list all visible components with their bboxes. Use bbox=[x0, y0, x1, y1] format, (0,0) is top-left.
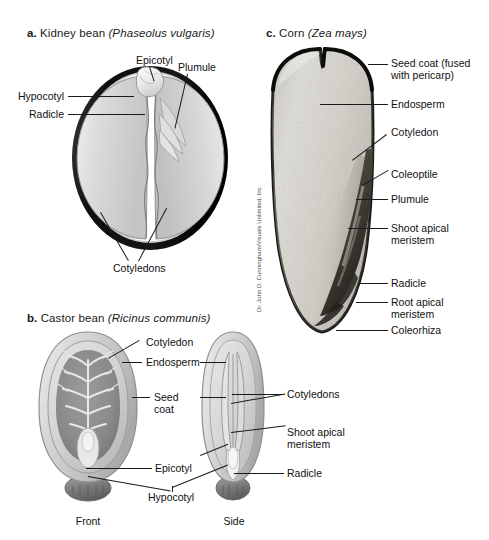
leader-castor-hypocotyl-tick bbox=[172, 486, 173, 492]
panel-a-heading: a. Kidney bean (Phaseolus vulgaris) bbox=[27, 27, 215, 39]
label-castor-seed-coat-line1: Seed bbox=[154, 391, 179, 403]
castor-bean-side-illustration bbox=[196, 330, 270, 510]
seed-structure-figure: a. Kidney bean (Phaseolus vulgaris) bbox=[0, 0, 489, 540]
label-corn-sam-line2: meristem bbox=[391, 234, 434, 246]
leader-castor-seed-coat-right bbox=[200, 397, 226, 398]
panel-a-scientific-name: (Phaseolus vulgaris) bbox=[108, 27, 214, 39]
label-corn-cotyledon: Cotyledon bbox=[391, 127, 438, 139]
label-corn-seed-coat-line2: with pericarp) bbox=[391, 69, 454, 81]
label-castor-seed-coat: Seed coat bbox=[154, 392, 200, 415]
label-corn-coleoptile: Coleoptile bbox=[391, 169, 438, 181]
label-corn-shoot-apical-meristem: Shoot apical meristem bbox=[391, 223, 481, 246]
leader-corn-plumule bbox=[356, 199, 388, 200]
label-kidney-bean-cotyledons: Cotyledons bbox=[113, 263, 166, 275]
leader-kidney-bean-hypocotyl bbox=[68, 96, 134, 97]
label-castor-radicle: Radicle bbox=[287, 468, 322, 480]
label-corn-ram-line1: Root apical bbox=[391, 296, 444, 308]
label-corn-plumule: Plumule bbox=[391, 194, 429, 206]
leader-castor-epicotyl-front bbox=[86, 468, 152, 469]
panel-b-name: Castor bean bbox=[41, 312, 105, 324]
panel-a-name: Kidney bean bbox=[40, 27, 105, 39]
panel-a-letter: a. bbox=[27, 27, 37, 39]
label-corn-seed-coat: Seed coat (fused with pericarp) bbox=[391, 58, 487, 81]
label-corn-ram-line2: meristem bbox=[391, 308, 434, 320]
leader-corn-root-apical-meristem bbox=[356, 302, 388, 303]
leader-castor-seed-coat-left bbox=[132, 397, 150, 398]
panel-b-scientific-name: (Ricinus communis) bbox=[108, 312, 211, 324]
label-corn-sam-line1: Shoot apical bbox=[391, 222, 449, 234]
label-corn-endosperm: Endosperm bbox=[391, 99, 445, 111]
label-castor-view-side: Side bbox=[205, 516, 263, 528]
label-kidney-bean-radicle: Radicle bbox=[6, 109, 64, 121]
leader-corn-coleorhiza bbox=[336, 330, 388, 331]
leader-corn-seed-coat bbox=[368, 64, 388, 65]
label-kidney-bean-epicotyl: Epicotyl bbox=[136, 55, 173, 67]
corn-kernel-svg bbox=[266, 46, 378, 337]
label-castor-seed-coat-line2: coat bbox=[154, 403, 174, 415]
label-castor-shoot-apical-meristem: Shoot apical meristem bbox=[287, 427, 367, 450]
leader-corn-shoot-apical-meristem bbox=[348, 228, 388, 229]
panel-c-letter: c. bbox=[266, 27, 276, 39]
label-castor-view-front: Front bbox=[58, 516, 118, 528]
label-corn-seed-coat-line1: Seed coat (fused bbox=[391, 57, 470, 69]
kidney-bean-svg bbox=[60, 62, 240, 262]
photo-credit: Dr. John D. Cunningham/Visuals Unlimited… bbox=[256, 186, 262, 312]
leader-corn-radicle bbox=[358, 283, 388, 284]
castor-bean-side-svg bbox=[196, 330, 270, 510]
label-castor-sam-line1: Shoot apical bbox=[287, 426, 345, 438]
leader-castor-endosperm-left bbox=[122, 362, 142, 363]
leader-castor-endosperm-right bbox=[200, 362, 226, 363]
label-castor-sam-line2: meristem bbox=[287, 438, 330, 450]
panel-c-heading: c. Corn (Zea mays) bbox=[266, 27, 367, 39]
panel-b-letter: b. bbox=[27, 312, 37, 324]
label-kidney-bean-hypocotyl: Hypocotyl bbox=[6, 91, 64, 103]
label-castor-cotyledon: Cotyledon bbox=[146, 337, 193, 349]
label-castor-epicotyl: Epicotyl bbox=[155, 463, 192, 475]
leader-castor-radicle bbox=[234, 473, 284, 474]
label-corn-coleorhiza: Coleorhiza bbox=[391, 325, 441, 337]
label-castor-cotyledons: Cotyledons bbox=[287, 389, 340, 401]
panel-b-heading: b. Castor bean (Ricinus communis) bbox=[27, 312, 211, 324]
label-castor-hypocotyl: Hypocotyl bbox=[148, 492, 194, 504]
kidney-bean-illustration bbox=[60, 62, 240, 262]
leader-corn-endosperm bbox=[320, 104, 388, 105]
label-kidney-bean-plumule: Plumule bbox=[178, 62, 216, 74]
label-corn-root-apical-meristem: Root apical meristem bbox=[391, 297, 481, 320]
panel-c-name: Corn bbox=[279, 27, 304, 39]
corn-kernel-photograph bbox=[266, 46, 378, 337]
label-castor-endosperm: Endosperm bbox=[146, 357, 200, 369]
panel-c-scientific-name: (Zea mays) bbox=[308, 27, 367, 39]
label-corn-radicle: Radicle bbox=[391, 278, 426, 290]
leader-kidney-bean-radicle bbox=[68, 114, 145, 115]
